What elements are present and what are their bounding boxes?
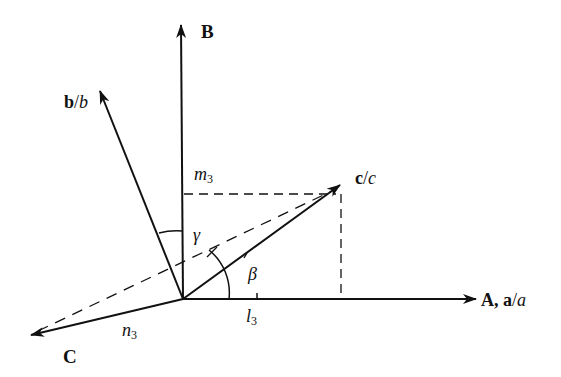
vector-c-label: c/c: [355, 168, 376, 188]
projection-m3-label: m3: [194, 164, 213, 186]
projection-l3-label: l3: [246, 306, 257, 328]
vector-diagram: B b/b c/c A, a/a C m3 l3 n3 γ β: [0, 0, 561, 377]
vector-b-label: b/b: [64, 92, 88, 112]
angle-gamma-label: γ: [193, 225, 201, 245]
axis-a-label: A, a/a: [481, 290, 526, 310]
axis-b-label: B: [201, 21, 214, 42]
vector-c-arrow: [183, 185, 340, 299]
angle-arc-beta: [209, 250, 229, 299]
angle-beta-label: β: [247, 264, 257, 284]
axis-c-label: C: [63, 346, 77, 367]
axis-c-arrow: [31, 299, 183, 335]
projection-n3-label: n3: [122, 320, 137, 342]
axis-b-arrow: [181, 25, 183, 299]
angle-arc-gamma: [159, 231, 182, 233]
vector-b-arrow: [100, 91, 183, 299]
dashed-projection-diagonal: [38, 190, 334, 331]
